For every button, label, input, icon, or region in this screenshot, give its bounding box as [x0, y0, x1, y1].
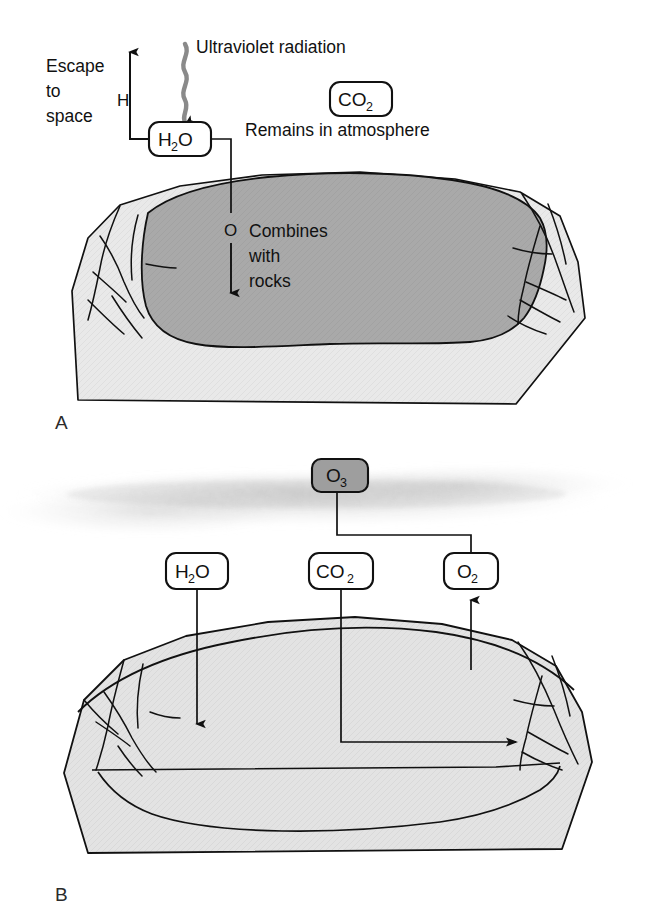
remains-in-atmosphere-label: Remains in atmosphere [245, 120, 430, 140]
molecule-box-co2-b-formula: CO [316, 561, 345, 582]
combines-label-line1: Combines [249, 221, 328, 241]
molecule-box-co2-b[interactable]: CO 2 [309, 553, 373, 589]
panel-b-terrain [64, 617, 592, 853]
molecule-box-co2-a[interactable]: CO 2 [330, 82, 392, 116]
panel-a-terrain [72, 172, 585, 404]
uv-radiation-squiggle-arrow [183, 44, 186, 124]
molecule-box-h2o-b-tail: O [195, 561, 210, 582]
panel-b-letter: B [55, 884, 68, 906]
combines-label-line2: with [248, 246, 280, 266]
escape-label-line1: Escape [46, 56, 104, 76]
molecule-box-h2o-a[interactable]: H 2 O [149, 122, 211, 156]
molecule-box-o3-b[interactable]: O 3 [312, 459, 368, 492]
panel-b: O 3 H 2 O CO 2 O 2 [0, 459, 630, 853]
molecule-box-o3-b-formula: O [326, 465, 341, 486]
molecule-box-co2-a-formula: CO [338, 89, 367, 110]
combines-label-line3: rocks [249, 271, 291, 291]
molecule-box-co2-a-subscript: 2 [366, 100, 373, 114]
panel-a-letter: A [55, 412, 68, 434]
molecule-box-h2o-a-formula: H [158, 129, 172, 150]
molecule-box-o3-b-subscript: 3 [340, 476, 347, 490]
molecule-box-h2o-b[interactable]: H 2 O [166, 553, 228, 589]
panel-a: Escape to space H Ultraviolet radiation … [46, 37, 585, 404]
escape-label-line3: space [46, 106, 93, 126]
molecule-box-o2-b[interactable]: O 2 [444, 553, 498, 589]
escape-label-line2: to [46, 81, 61, 101]
uv-radiation-label: Ultraviolet radiation [196, 37, 346, 57]
oxygen-atom-label: O [224, 221, 237, 240]
hydrogen-escape-arrow [130, 52, 149, 139]
molecule-box-h2o-b-subscript: 2 [188, 572, 195, 586]
molecule-box-h2o-a-subscript: 2 [171, 140, 178, 154]
molecule-box-co2-b-subscript: 2 [347, 572, 354, 586]
molecule-box-h2o-a-tail: O [178, 129, 193, 150]
molecule-box-o2-b-subscript: 2 [471, 572, 478, 586]
molecule-box-h2o-b-formula: H [175, 561, 189, 582]
molecule-box-o2-b-formula: O [457, 561, 472, 582]
hydrogen-atom-label: H [117, 91, 129, 110]
atmosphere-evolution-figure: Escape to space H Ultraviolet radiation … [0, 0, 646, 907]
terrain-a-inner-texture [142, 173, 547, 347]
